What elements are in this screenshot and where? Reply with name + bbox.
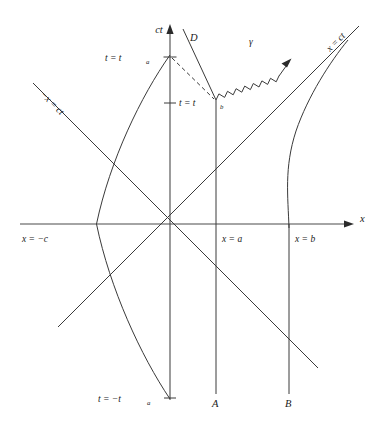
label-lightcone-right: x = ct	[324, 30, 348, 54]
spacetime-diagram: ct x t = t a t = t b t = −t a x = −c x =…	[0, 0, 385, 432]
label-x-b: x = b	[294, 234, 315, 244]
ct-axis-label: ct	[155, 24, 164, 35]
label-x-a: x = a	[221, 234, 242, 244]
label-t-b-text: t = t	[179, 98, 196, 108]
photon-gamma-wave	[216, 59, 292, 101]
label-x-minus-c: x = −c	[21, 234, 49, 244]
hyperbola-x-minus-c	[97, 55, 171, 399]
photon-arrowhead	[282, 59, 292, 68]
dashed-signal-line	[172, 58, 214, 99]
lightcone-group	[33, 26, 359, 368]
label-worldline-d: D	[189, 32, 198, 43]
lightcone-left-line	[33, 83, 318, 368]
lightcone-right-line	[58, 26, 359, 327]
label-t-a-subscript: a	[146, 58, 150, 65]
photon-zigzag-path	[216, 76, 279, 100]
worldline-d-line	[183, 29, 216, 100]
label-photon-gamma: γ	[249, 37, 253, 47]
ct-axis-arrowhead	[166, 24, 173, 34]
label-t-minus-a-subscript: a	[147, 399, 151, 406]
label-t-minus-a: t = −t a	[98, 394, 151, 406]
label-t-a-text: t = t	[105, 53, 122, 63]
hyperbola-x-b	[288, 40, 348, 228]
x-axis-arrowhead	[344, 220, 354, 227]
diagram-canvas: ct x t = t a t = t b t = −t a x = −c x =…	[0, 0, 385, 432]
label-t-a: t = t a	[105, 53, 150, 65]
label-t-b: t = t b	[179, 98, 224, 110]
x-axis-label: x	[359, 213, 365, 224]
label-t-minus-a-text: t = −t	[98, 394, 121, 404]
label-lightcone-left: −x = ct	[39, 89, 67, 117]
label-worldline-a: A	[211, 398, 219, 409]
label-t-b-subscript: b	[220, 103, 224, 110]
label-worldline-b: B	[285, 398, 292, 409]
